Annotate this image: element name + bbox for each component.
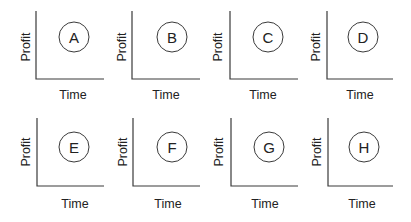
y-axis-label: Profit: [116, 137, 130, 167]
y-axis-label: Profit: [309, 32, 323, 62]
panel-letter: A: [69, 29, 79, 46]
panel-letter: E: [69, 139, 79, 156]
x-axis-label: Time: [348, 197, 375, 211]
panel-b: Profit Time B: [115, 11, 200, 102]
x-axis-label: Time: [61, 197, 88, 211]
panel-a: Profit Time A: [19, 11, 104, 102]
y-axis-label: Profit: [212, 137, 226, 167]
y-axis-label: Profit: [115, 32, 129, 62]
y-axis-label: Profit: [310, 137, 324, 167]
y-axis-label: Profit: [211, 32, 225, 62]
x-axis-label: Time: [249, 88, 276, 102]
panel-c: Profit Time C: [211, 11, 298, 102]
y-axis-label: Profit: [19, 137, 33, 167]
panel-letter: B: [167, 29, 177, 46]
panel-e: Profit Time E: [19, 118, 104, 211]
x-axis-label: Time: [152, 88, 179, 102]
panel-h: Profit Time H: [310, 118, 393, 211]
x-axis-label: Time: [251, 197, 278, 211]
panel-letter: C: [263, 29, 274, 46]
x-axis-label: Time: [59, 88, 86, 102]
panel-f: Profit Time F: [116, 118, 200, 211]
panel-grid: Profit Time A Profit Time B Profit Time …: [0, 0, 411, 222]
x-axis-label: Time: [154, 197, 181, 211]
panel-d: Profit Time D: [309, 11, 393, 102]
panel-letter: H: [359, 139, 370, 156]
x-axis-label: Time: [346, 88, 373, 102]
y-axis-label: Profit: [19, 32, 33, 62]
panel-letter: D: [358, 29, 369, 46]
panel-letter: G: [263, 139, 275, 156]
panel-letter: F: [167, 139, 176, 156]
panel-g: Profit Time G: [212, 118, 298, 211]
